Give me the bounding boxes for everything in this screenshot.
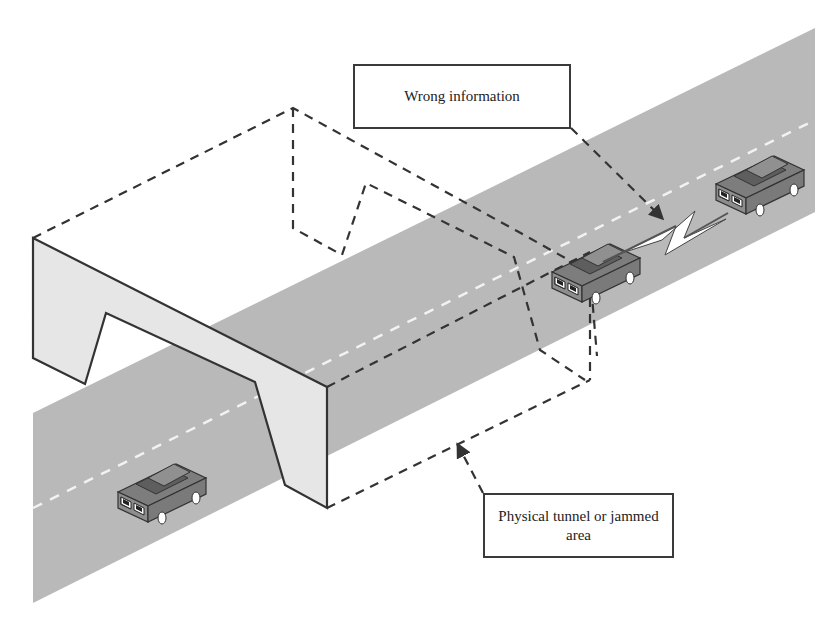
wrong-information-text: Wrong information [404, 87, 520, 106]
tunnel-area-arrow [458, 445, 483, 493]
wrong-information-label: Wrong information [353, 64, 571, 129]
physical-tunnel-label: Physical tunnel or jammed area [483, 493, 674, 558]
physical-tunnel-text: Physical tunnel or jammed area [485, 507, 672, 545]
